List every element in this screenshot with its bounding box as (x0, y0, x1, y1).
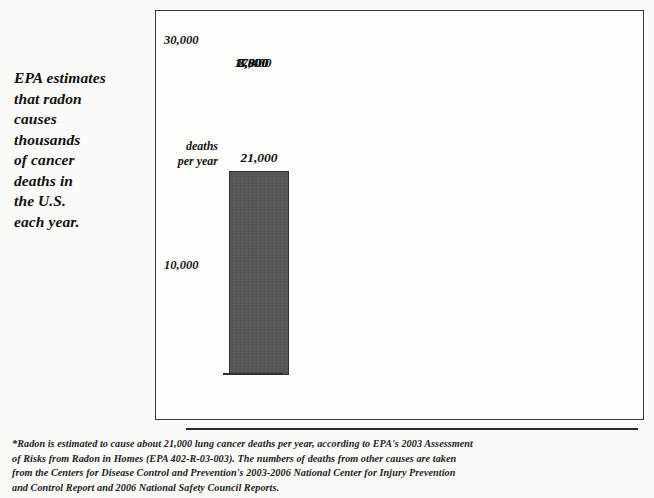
caption-line: deaths in (14, 171, 146, 192)
y-axis-annotation-line2: per year (156, 154, 218, 169)
footnote-text: *Radon is estimated to cause about 21,00… (12, 437, 648, 495)
plot-area: 21,000 17,400 8,000 (219, 23, 635, 419)
caption-line: of cancer (14, 150, 146, 171)
caption-line: that radon (14, 89, 146, 110)
caption-line: the U.S. (14, 191, 146, 212)
caption-text: EPA estimates that radon causes thousand… (14, 68, 146, 232)
bar-chart: 30,000 10,000 deaths per year 21,000 17,… (155, 10, 644, 420)
footnote-line: *Radon is estimated to cause about 21,00… (12, 437, 648, 452)
caption-line: thousands (14, 130, 146, 151)
bar-column: 2,800 (219, 55, 287, 375)
caption-line: causes (14, 109, 146, 130)
bar-rect (223, 373, 283, 375)
bar-slot: 2,800 (219, 55, 287, 375)
caption-line: each year. (14, 212, 146, 233)
footnote-line: from the Centers for Disease Control and… (12, 466, 648, 481)
footnote-line: of Risks from Radon in Homes (EPA 402-R-… (12, 452, 648, 467)
footnote-line: and Control Report and 2006 National Saf… (12, 481, 648, 496)
footnote-divider (186, 428, 638, 430)
y-axis-annotation-line1: deaths (156, 139, 218, 154)
chart-page: EPA estimates that radon causes thousand… (0, 0, 654, 498)
caption-line: EPA estimates (14, 68, 146, 89)
bar-value-label: 2,800 (211, 55, 295, 71)
y-axis-annotation: deaths per year (156, 139, 218, 169)
